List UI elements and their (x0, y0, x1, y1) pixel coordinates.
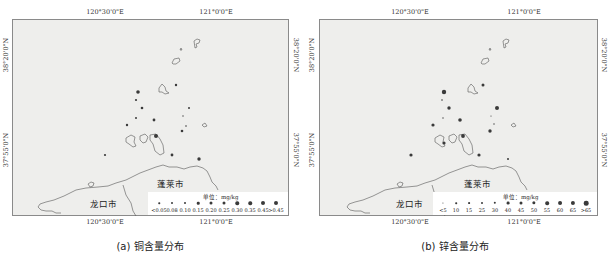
legend-label-6: 0.25 (218, 207, 229, 213)
legend-dot-12 (584, 201, 589, 206)
legend-label-7: 45 (518, 207, 524, 213)
legend-title: 单位：mg/kg (503, 193, 538, 201)
legend-a: 单位：mg/kg <0.05 0.08 0.10 0.15 0.20 0.25 … (148, 192, 288, 215)
legend-dot-3 (468, 202, 470, 204)
lon-tick-bottom-2: 121°0'0"E (507, 218, 540, 226)
legend-dot-1 (442, 202, 443, 203)
legend-label-12: >65 (581, 207, 592, 213)
legend-label-8: 50 (531, 207, 537, 213)
legend-dot-9 (261, 201, 265, 205)
legend-title: 单位：mg/kg (203, 193, 238, 201)
legend-label-6: 40 (505, 207, 511, 213)
legend-label-5: 0.20 (205, 207, 216, 213)
city-label-penglai: 蓬莱市 (157, 177, 184, 189)
legend-dot-2 (455, 202, 457, 204)
legend-label-9: 0.45 (257, 207, 268, 213)
legend-label-11: 65 (570, 207, 576, 213)
legend-dot-10 (274, 201, 278, 205)
lon-tick-bottom-2: 121°0'0"E (199, 218, 232, 226)
legend-dot-3 (184, 202, 186, 204)
figure-caption-a: (a) 铜含量分布 (116, 238, 183, 253)
legend-label-3: 15 (466, 207, 472, 213)
legend-dot-6 (507, 202, 510, 205)
legend-label-2: 0.08 (166, 207, 177, 213)
legend-label-8: 0.35 (244, 207, 255, 213)
legend-dot-2 (171, 202, 173, 204)
legend-dot-11 (571, 201, 575, 205)
legend-dot-4 (481, 202, 483, 204)
legend-dot-5 (210, 202, 213, 205)
legend-dot-9 (545, 201, 549, 205)
legend-label-10: 60 (557, 207, 563, 213)
map-panel-b: 120°30'0"E 121°0'0"E 38°20'0"N 37°55'0"N… (305, 0, 609, 247)
legend-dot-7 (235, 201, 239, 205)
legend-label-9: 55 (544, 207, 550, 213)
city-label-penglai: 蓬莱市 (464, 177, 491, 189)
legend-dot-1 (158, 202, 160, 204)
legend-label-7: 0.30 (231, 207, 242, 213)
city-label-longkou: 龙口市 (396, 197, 423, 209)
legend-dot-4 (197, 202, 200, 205)
legend-label-3: 0.10 (179, 207, 190, 213)
legend-label-4: 25 (479, 207, 485, 213)
lon-tick-bottom-1: 120°30'0"E (86, 218, 124, 226)
legend-label-10: >0.45 (268, 207, 283, 213)
legend-label-4: 0.15 (192, 207, 203, 213)
legend-label-2: 10 (453, 207, 459, 213)
legend-dot-10 (558, 201, 562, 205)
legend-dot-8 (532, 201, 535, 204)
legend-dot-6 (223, 202, 226, 205)
legend-label-1: <5 (439, 207, 446, 213)
figure-caption-b: (b) 锌含量分布 (421, 238, 488, 253)
legend-dot-8 (248, 201, 252, 205)
legend-b: 单位：mg/kg <5 10 15 25 30 40 45 50 55 60 6… (433, 192, 597, 215)
city-label-longkou: 龙口市 (90, 197, 117, 209)
legend-dot-7 (520, 202, 523, 205)
map-panel-a: 120°30'0"E 121°0'0"E 38°20'0"N 37°55'0"N… (0, 0, 304, 247)
legend-label-1: <0.05 (151, 207, 166, 213)
legend-label-5: 30 (492, 207, 498, 213)
legend-dot-5 (494, 202, 496, 204)
lon-tick-bottom-1: 120°30'0"E (391, 218, 429, 226)
